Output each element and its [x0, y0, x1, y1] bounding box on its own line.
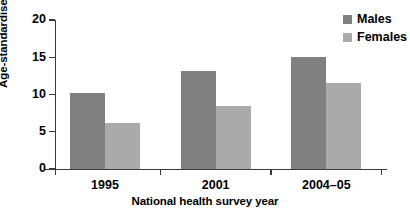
x-tick-label-0: 1995 — [91, 179, 119, 192]
x-tick-label-2: 2004–05 — [302, 179, 351, 192]
bar-chart-figure: 05101520 199520012004–05 Age-standardise… — [0, 0, 410, 217]
x-axis-line — [45, 169, 387, 170]
y-tick-label-10: 10 — [32, 87, 46, 100]
bar-males-200405 — [291, 57, 326, 169]
x-tick-label-1: 2001 — [202, 179, 230, 192]
y-tick-10: 10 — [49, 94, 55, 95]
legend-label-females: Females — [357, 31, 407, 44]
legend-swatch-males — [343, 15, 352, 24]
x-tick-2 — [381, 169, 382, 175]
legend-label-males: Males — [357, 13, 392, 26]
bar-females-2001 — [216, 106, 251, 169]
bar-males-2001 — [181, 71, 216, 169]
x-axis-title: National health survey year — [0, 196, 410, 208]
y-tick-label-0: 0 — [39, 162, 46, 175]
x-tick-0 — [160, 169, 161, 175]
y-tick-5: 5 — [49, 131, 55, 132]
y-axis-line — [55, 20, 56, 170]
legend-swatch-females — [343, 33, 352, 42]
y-tick-20: 20 — [49, 19, 55, 20]
y-tick-label-20: 20 — [32, 13, 46, 26]
legend: MalesFemales — [343, 12, 407, 48]
clipped-header-strip — [0, 0, 410, 7]
bar-females-200405 — [326, 83, 361, 169]
y-axis-title: Age-standardised percentage — [0, 0, 10, 88]
y-tick-label-15: 15 — [32, 50, 46, 63]
x-tick-1 — [270, 169, 271, 175]
bar-males-1995 — [70, 93, 105, 169]
y-tick-15: 15 — [49, 57, 55, 58]
plot-area: 05101520 199520012004–05 — [55, 20, 387, 169]
legend-item-females: Females — [343, 30, 407, 45]
bar-females-1995 — [105, 123, 140, 169]
legend-item-males: Males — [343, 12, 407, 27]
y-tick-label-5: 5 — [39, 125, 46, 138]
x-tick-origin — [55, 169, 56, 175]
